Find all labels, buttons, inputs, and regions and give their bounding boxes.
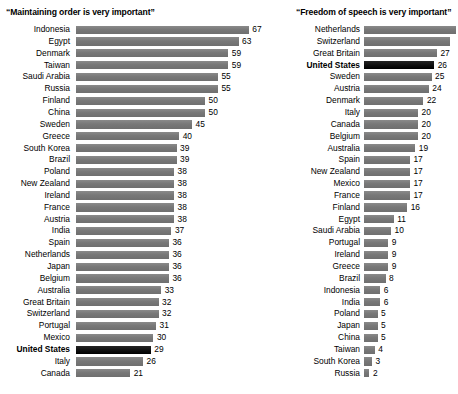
bar-value: 38 — [178, 166, 187, 177]
bar — [76, 334, 153, 342]
bar — [76, 274, 169, 282]
bar — [76, 73, 218, 81]
bar-label: Switzerland — [0, 308, 70, 319]
bar — [364, 369, 369, 377]
bar — [364, 263, 388, 271]
bar-row: Italy26 — [0, 356, 252, 368]
bar-value: 17 — [413, 190, 422, 201]
bar-value: 27 — [440, 48, 449, 59]
bar-value: 36 — [172, 249, 181, 260]
bar-label: Canada — [0, 368, 70, 379]
bar-value: 38 — [178, 178, 187, 189]
bar-label: Belgium — [0, 273, 70, 284]
bar — [364, 49, 437, 57]
bar-label: Finland — [0, 95, 70, 106]
bar — [364, 334, 378, 342]
bar-label: India — [0, 225, 70, 236]
bar-row: United States26 — [296, 60, 458, 72]
bar — [364, 109, 418, 117]
bar-row: Canada21 — [0, 368, 252, 380]
bar-row: Austria24 — [296, 83, 458, 95]
bar-row: Egypt11 — [296, 214, 458, 226]
bar — [76, 251, 169, 259]
bar-label: Indonesia — [296, 285, 360, 296]
bar-label: Ireland — [296, 249, 360, 260]
bar-value: 2 — [373, 368, 378, 379]
bar-row: Sweden45 — [0, 119, 252, 131]
bar-label: Denmark — [0, 48, 70, 59]
bar-label: South Korea — [296, 356, 360, 367]
bar — [76, 203, 174, 211]
bar-value: 21 — [134, 368, 143, 379]
bar-label: Greece — [0, 131, 70, 142]
bar-value: 17 — [413, 178, 422, 189]
panel-maintaining-order: “Maintaining order is very important” In… — [0, 0, 252, 394]
bar — [76, 49, 228, 57]
bar-row: Greece40 — [0, 131, 252, 143]
bar — [364, 215, 394, 223]
bar-value: 9 — [392, 249, 397, 260]
bar-row: Portugal31 — [0, 320, 252, 332]
bar-label: Portugal — [296, 237, 360, 248]
bar-value: 36 — [172, 261, 181, 272]
bar-value: 10 — [395, 225, 404, 236]
panel-freedom-of-speech: “Freedom of speech is very important” Ne… — [296, 0, 458, 394]
bar-row: Italy20 — [296, 107, 458, 119]
bar — [364, 144, 415, 152]
bar-row: France17 — [296, 190, 458, 202]
bar-label: Sweden — [296, 71, 360, 82]
bar — [76, 369, 130, 377]
bar — [76, 215, 174, 223]
bar-row: India6 — [296, 297, 458, 309]
bar-label: United States — [296, 60, 360, 71]
bar-label: Canada — [296, 119, 360, 130]
bar-value: 6 — [384, 297, 389, 308]
bar-row: China5 — [296, 332, 458, 344]
bar-label: Spain — [296, 154, 360, 165]
bar-label: Taiwan — [296, 344, 360, 355]
bar-row: Great Britain27 — [296, 48, 458, 60]
bar-row: Switzerland32 — [0, 308, 252, 320]
bar-row: Ireland9 — [296, 249, 458, 261]
bar-label: Brazil — [296, 273, 360, 284]
bar — [76, 357, 143, 365]
bar-row: Saudi Arabia55 — [0, 71, 252, 83]
bar — [364, 286, 380, 294]
bar-label: Egypt — [0, 36, 70, 47]
bar-label: Egypt — [296, 214, 360, 225]
bar-label: Italy — [296, 107, 360, 118]
bar-value: 6 — [384, 285, 389, 296]
bar-label: Finland — [296, 202, 360, 213]
bar-value: 11 — [397, 214, 406, 225]
bar-label: Denmark — [296, 95, 360, 106]
chart-figure: “Maintaining order is very important” In… — [0, 0, 458, 394]
bar-value: 38 — [178, 214, 187, 225]
bar-label: Russia — [0, 83, 70, 94]
bar-value: 63 — [242, 36, 251, 47]
bar — [76, 61, 228, 69]
bar — [76, 322, 156, 330]
bar-row: Japan5 — [296, 320, 458, 332]
bar — [364, 227, 391, 235]
bar-value: 31 — [159, 320, 168, 331]
bar-row: India37 — [0, 225, 252, 237]
bar-label: Great Britain — [0, 297, 70, 308]
bar-row: Spain36 — [0, 237, 252, 249]
bar-value: 5 — [381, 332, 386, 343]
bar — [364, 322, 378, 330]
bar — [364, 132, 418, 140]
bar-row: Finland50 — [0, 95, 252, 107]
bar-row: New Zealand38 — [0, 178, 252, 190]
bar-value: 55 — [221, 83, 230, 94]
bar-label: Austria — [0, 214, 70, 225]
bar-value: 38 — [178, 202, 187, 213]
bar-label: Netherlands — [0, 249, 70, 260]
bar-row: Mexico17 — [296, 178, 458, 190]
bar-label: South Korea — [0, 143, 70, 154]
bar-value: 39 — [180, 154, 189, 165]
bar-row: Indonesia6 — [296, 285, 458, 297]
bar-label: New Zealand — [296, 166, 360, 177]
bar-label: Italy — [0, 356, 70, 367]
bar-row: Poland5 — [296, 308, 458, 320]
bar-row: Switzerland — [296, 36, 458, 48]
